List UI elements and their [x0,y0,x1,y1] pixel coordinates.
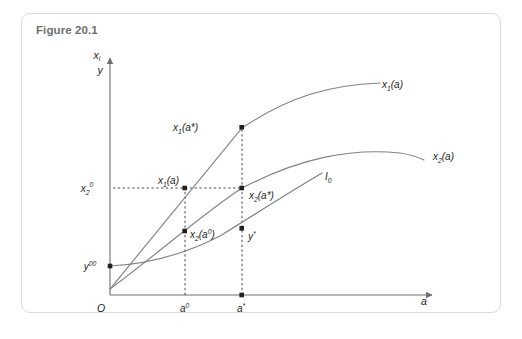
curve-label-x1: x1(a) [381,79,403,92]
marker-x1-astar [239,125,244,130]
y-axis-label-top: xi [93,49,101,62]
curve-label-x2: x2(a) [432,151,454,164]
guide-lines [113,127,243,295]
x-tick-label-astar: a* [237,302,246,314]
marker-x2-a0 [182,229,187,234]
point-label-x2-a0: x2(a0) [189,228,215,242]
marker-x2-astar [239,186,244,191]
point-label-x1-astar: x1(a*) [172,122,198,135]
figure-screenshot: Figure 20.1 [0,0,522,339]
point-label-x1-a0: x1(a) [157,175,179,188]
y-axis-label-bottom: y [96,64,103,76]
origin-label: O [97,302,105,314]
marker-y00 [108,264,113,269]
curve-label-i0: I0 [325,171,332,184]
marker-tick-astar [239,293,244,298]
curve-i0 [110,173,322,266]
point-label-x2-astar: x2(a*) [248,190,274,203]
figure-svg: xi y a O a0 a* x20 y00 x1(a) x2(a) I0 [0,0,522,339]
curve-group [110,83,424,289]
marker-x1-a0 [182,186,187,191]
point-label-y-astar: y* [247,230,256,242]
marker-y-astar [239,226,244,231]
curve-x2 [110,152,424,289]
x-axis-label: a [421,295,427,307]
y-tick-label-x20: x20 [80,181,94,196]
y-tick-label-y00: y00 [83,260,97,272]
x-tick-label-a0: a0 [180,302,190,314]
